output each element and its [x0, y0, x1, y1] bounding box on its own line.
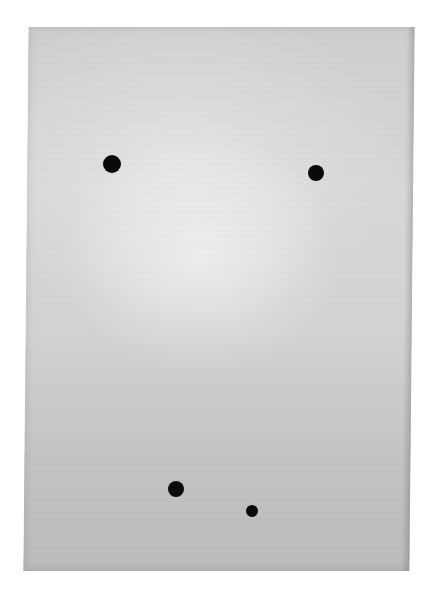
black-dot-top-right	[308, 165, 324, 181]
black-dot-bottom-right	[246, 505, 258, 517]
gray-paper-sheet	[23, 27, 414, 571]
paper-edge-shadow	[401, 27, 414, 571]
black-dot-bottom-left	[168, 481, 184, 497]
photo-scene	[0, 0, 434, 599]
black-dot-top-left	[103, 155, 121, 173]
